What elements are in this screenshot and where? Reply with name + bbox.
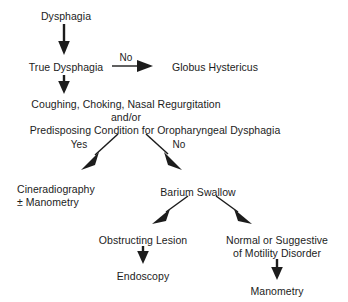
- node-true-dysphagia: True Dysphagia: [29, 61, 103, 74]
- node-normal-suggestive-line-1: Normal or Suggestive: [226, 234, 328, 247]
- arrow-obstructing-lesion-to-endoscopy: [137, 246, 149, 264]
- node-manometry: Manometry: [251, 285, 304, 298]
- node-barium-swallow: Barium Swallow: [160, 186, 235, 199]
- edge-label-no-globus: No: [120, 52, 133, 63]
- node-cineradiography: Cineradiography: [17, 183, 95, 196]
- edge-label-yes-branch: Yes: [71, 139, 87, 150]
- arrow-true-dysphagia-to-symptoms: [58, 75, 70, 94]
- node-symptoms-line-3: Predisposing Condition for Oropharyngeal…: [30, 124, 281, 137]
- flowchart-canvas: Dysphagia True Dysphagia Globus Hysteric…: [0, 0, 348, 302]
- node-globus-hystericus: Globus Hystericus: [172, 61, 258, 74]
- arrow-barium-swallow-to-normal-suggestive: [216, 196, 252, 224]
- node-endoscopy: Endoscopy: [117, 270, 169, 283]
- arrow-dysphagia-to-true-dysphagia: [58, 24, 70, 55]
- node-symptoms-line-1: Coughing, Choking, Nasal Regurgitation: [31, 98, 220, 111]
- arrow-barium-swallow-to-obstructing-lesion: [152, 196, 188, 224]
- node-obstructing-lesion: Obstructing Lesion: [99, 234, 187, 247]
- node-plus-minus-manometry: ± Manometry: [17, 196, 79, 209]
- arrow-normal-suggestive-to-manometry: [271, 259, 283, 280]
- node-symptoms-line-2: and/or: [111, 111, 141, 124]
- node-dysphagia: Dysphagia: [41, 10, 91, 23]
- edge-label-no-branch: No: [173, 139, 186, 150]
- node-normal-suggestive-line-2: of Motility Disorder: [233, 247, 321, 260]
